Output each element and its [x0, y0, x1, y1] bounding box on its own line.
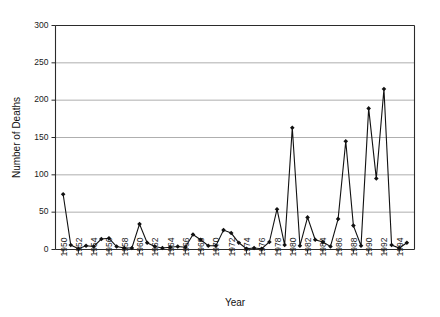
series-line-deaths: [63, 89, 407, 249]
x-tick-label: 1992: [379, 237, 389, 256]
x-tick-label: 1990: [364, 237, 374, 256]
data-point-marker: [145, 240, 150, 245]
x-tick-label: 1978: [273, 237, 283, 256]
data-point-marker: [305, 215, 310, 220]
data-point-marker: [382, 87, 387, 92]
x-tick-label: 1986: [334, 237, 344, 256]
y-tick-label: 0: [44, 244, 49, 254]
x-tick-label: 1960: [135, 237, 145, 256]
y-tick-label: 50: [39, 206, 49, 216]
data-point-marker: [343, 139, 348, 144]
data-point-marker: [290, 125, 295, 130]
data-point-marker: [221, 228, 226, 233]
y-tick-label: 150: [34, 132, 48, 142]
x-tick-label: 1972: [227, 237, 237, 256]
chart-container: 050100150200250300 195019521954195619581…: [0, 0, 440, 317]
data-point-marker: [61, 192, 66, 197]
x-tick-label: 1984: [318, 237, 328, 256]
x-tick-label: 1980: [288, 237, 298, 256]
data-point-marker: [137, 222, 142, 227]
y-tick-label: 300: [34, 20, 48, 30]
data-point-marker: [389, 243, 394, 248]
x-tick-label: 1950: [59, 237, 69, 256]
y-axis-title: Number of Deaths: [11, 97, 22, 178]
data-point-marker: [282, 243, 287, 248]
data-point-marker: [328, 244, 333, 249]
x-tick-label: 1976: [257, 237, 267, 256]
data-point-marker: [298, 243, 303, 248]
data-point-marker: [68, 243, 73, 248]
gridlines-group: [56, 26, 415, 213]
line-chart: 050100150200250300 195019521954195619581…: [0, 0, 440, 317]
x-tick-label: 1982: [303, 237, 313, 256]
x-axis-title: Year: [225, 297, 246, 308]
data-point-marker: [336, 217, 341, 222]
data-point-marker: [84, 243, 89, 248]
y-axis-ticks-group: 050100150200250300: [34, 20, 55, 254]
y-tick-label: 200: [34, 94, 48, 104]
data-series-group: [61, 87, 409, 251]
y-tick-label: 250: [34, 57, 48, 67]
data-point-marker: [351, 223, 356, 228]
y-tick-label: 100: [34, 169, 48, 179]
data-point-marker: [313, 237, 318, 242]
data-point-marker: [374, 176, 379, 181]
data-point-marker: [359, 243, 364, 248]
data-point-marker: [366, 106, 371, 111]
x-tick-label: 1988: [349, 237, 359, 256]
data-point-marker: [275, 207, 280, 212]
x-tick-label: 1956: [104, 237, 114, 256]
data-point-marker: [175, 244, 180, 249]
